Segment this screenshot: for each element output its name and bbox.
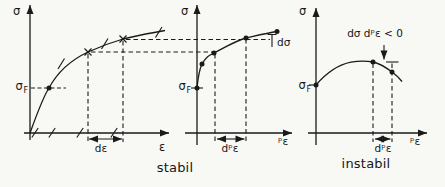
right-curve-points <box>314 60 395 88</box>
middle-point-2 <box>200 62 205 67</box>
left-yield-point <box>47 86 52 91</box>
middle-yield-sub-f: F <box>186 86 191 95</box>
instability-condition-label: dσ dᵖε < 0 <box>342 28 408 39</box>
middle-yield-sigma: σ <box>179 79 186 93</box>
left-yield-sub-f: F <box>23 86 28 95</box>
stress-level-dashed-lines <box>91 40 270 53</box>
right-softening-curve <box>316 61 402 85</box>
middle-yield-stress-label: σF <box>172 81 191 95</box>
right-yield-point <box>314 83 319 88</box>
left-x-axis-label: ε <box>153 142 171 154</box>
left-hardening-curve <box>30 31 165 134</box>
right-yield-sub-f: F <box>306 85 311 94</box>
middle-stress-increment-label: dσ <box>277 37 290 48</box>
left-strain-increment-label: dε <box>87 143 115 154</box>
unstable-caption: instabil <box>338 157 394 170</box>
stability-figure: σ σF dε ε σ σF dσ dᵖε ᵖε stabil σ σF dσ … <box>0 0 445 187</box>
left-yield-stress-label: σF <box>6 81 28 95</box>
middle-yield-point <box>195 86 200 91</box>
left-yield-sigma: σ <box>16 79 23 93</box>
middle-point-3 <box>212 51 217 56</box>
middle-stress-increment-tick <box>268 35 277 48</box>
middle-curve-points <box>195 29 280 91</box>
right-yield-stress-label: σF <box>291 80 311 94</box>
middle-plot <box>185 5 292 145</box>
right-y-axis-label: σ <box>299 6 306 18</box>
left-state-cross-markers <box>85 36 127 56</box>
middle-plastic-increment-label: dᵖε <box>215 143 245 154</box>
middle-y-axis-label: σ <box>181 6 188 18</box>
middle-point-5 <box>275 29 280 34</box>
right-plastic-increment-label: dᵖε <box>368 143 398 154</box>
stable-caption: stabil <box>149 161 201 174</box>
right-yield-sigma: σ <box>299 78 306 92</box>
left-plot <box>24 5 169 142</box>
middle-x-axis-label: ᵖε <box>273 136 293 147</box>
left-y-axis-label: σ <box>13 6 20 18</box>
right-x-axis-label: ᵖε <box>405 136 425 147</box>
